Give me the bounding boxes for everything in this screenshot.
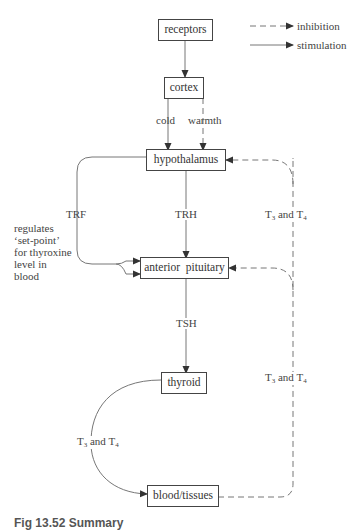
legend-inhibition-label: inhibition [297, 20, 340, 32]
edge-label-warmth: warmth [188, 115, 222, 126]
note-line: regulates [14, 222, 72, 234]
note-line: for thyroxine [14, 246, 72, 258]
edge-label-t3-t4-lower: T3 and T4 [264, 372, 308, 385]
edge-label-trh: TRH [174, 209, 198, 220]
note-line: level in [14, 258, 72, 270]
legend-stimulation-label: stimulation [297, 39, 347, 51]
note-line: ‘set-point’ [14, 234, 72, 246]
note-line: blood [14, 270, 72, 282]
figure-caption: Fig 13.52 Summary [14, 516, 123, 530]
edge-label-tsh: TSH [175, 318, 198, 329]
node-blood-tissues: blood/tissues [147, 485, 219, 507]
node-anterior-pituitary: anterior pituitary [140, 257, 229, 279]
node-thyroid: thyroid [161, 372, 207, 394]
node-receptors: receptors [158, 19, 213, 41]
set-point-note: regulates ‘set-point’ for thyroxine leve… [14, 222, 72, 282]
node-hypothalamus: hypothalamus [146, 149, 226, 171]
edge-label-t3-t4-upper: T3 and T4 [264, 209, 308, 222]
node-cortex: cortex [164, 77, 204, 99]
edge-label-t3-t4-left: T3 and T4 [76, 436, 120, 449]
edge-label-cold: cold [156, 115, 175, 126]
edge-label-trf: TRF [66, 209, 86, 220]
